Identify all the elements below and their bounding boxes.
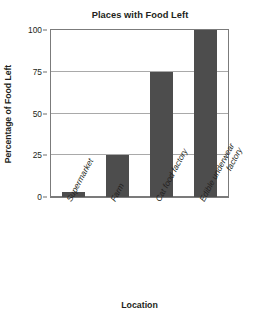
y-axis-tick-mark	[43, 113, 47, 114]
x-axis-title: Location	[50, 300, 229, 310]
y-axis-title-container: Percentage of Food Left	[0, 29, 16, 198]
bar-chart: Places with Food Left Percentage of Food…	[0, 0, 256, 327]
y-axis-tick-label: 25	[33, 150, 42, 160]
y-axis-tick-label: 75	[33, 67, 42, 77]
y-axis-tick-mark	[43, 197, 47, 198]
chart-title: Places with Food Left	[50, 10, 230, 20]
y-axis-tick-mark	[43, 30, 47, 31]
y-axis-title: Percentage of Food Left	[3, 64, 13, 162]
y-axis-tick-mark	[43, 155, 47, 156]
y-axis-ticks: 0255075100	[16, 29, 47, 198]
y-axis-tick-label: 0	[37, 192, 42, 202]
y-axis-tick-mark	[43, 71, 47, 72]
y-axis-tick-label: 50	[33, 109, 42, 119]
x-axis-ticks: SupermarketFarmCat food factoryEdible un…	[50, 199, 229, 291]
y-axis-tick-label: 100	[28, 25, 42, 35]
